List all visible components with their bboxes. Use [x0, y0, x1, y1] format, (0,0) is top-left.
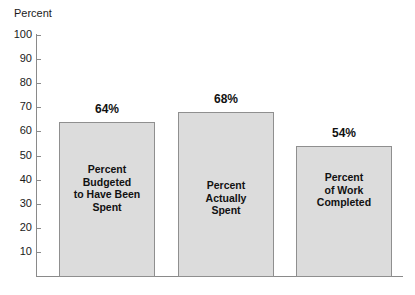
bar[interactable]: Percent Actually Spent [178, 112, 274, 277]
bar-chart: Percent 100908070605040302010 Percent Bu… [0, 0, 415, 295]
y-axis-tick-label: 30 [2, 198, 32, 209]
y-axis-tick-label: 50 [2, 150, 32, 161]
bar-value-label: 54% [296, 126, 392, 140]
y-axis-tick-label: 60 [2, 125, 32, 136]
bar-value-label: 68% [178, 92, 274, 106]
bar-label: Percent Actually Spent [202, 179, 251, 217]
bar[interactable]: Percent of Work Completed [296, 146, 392, 277]
y-axis-tick-label: 40 [2, 174, 32, 185]
plot-area: Percent Budgeted to Have Been Spent64%Pe… [36, 35, 402, 277]
y-axis-tick-label: 10 [2, 246, 32, 257]
y-axis-tick-labels: 100908070605040302010 [0, 0, 32, 295]
y-axis-tick-label: 20 [2, 222, 32, 233]
y-axis-tick-label: 100 [2, 29, 32, 40]
y-axis-tick-label: 80 [2, 77, 32, 88]
bar-label: Percent of Work Completed [313, 171, 375, 209]
y-axis-tick-label: 70 [2, 101, 32, 112]
y-axis-tick-label: 90 [2, 53, 32, 64]
bar[interactable]: Percent Budgeted to Have Been Spent [59, 122, 155, 277]
bar-label: Percent Budgeted to Have Been Spent [70, 163, 145, 213]
bar-value-label: 64% [59, 102, 155, 116]
